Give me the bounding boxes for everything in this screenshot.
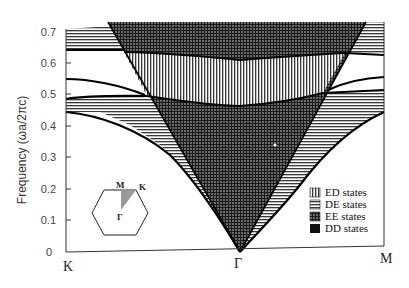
svg-text:EE states: EE states bbox=[325, 210, 366, 222]
legend: ED states DE states EE states DD states bbox=[310, 186, 368, 234]
legend-item-ed: ED states bbox=[310, 186, 367, 198]
inset-label-gamma: Γ bbox=[117, 212, 123, 222]
legend-item-dd: DD states bbox=[310, 222, 368, 234]
y-tick-0.7: 0.7 bbox=[41, 26, 56, 38]
y-tick-0.2: 0.2 bbox=[41, 183, 56, 195]
y-tick-labels: 0 0.1 0.2 0.3 0.4 0.5 0.6 0.7 bbox=[41, 26, 56, 258]
y-tick-0: 0 bbox=[46, 246, 52, 258]
curve-m-band bbox=[328, 77, 384, 90]
legend-item-ee: EE states bbox=[310, 210, 366, 222]
x-label-gamma: Γ bbox=[234, 256, 242, 271]
svg-text:ED states: ED states bbox=[325, 186, 367, 198]
y-axis-title: Frequency (ωa/2πc) bbox=[15, 96, 29, 204]
marker-dot bbox=[273, 143, 276, 146]
inset-label-k: K bbox=[139, 182, 146, 192]
y-tick-0.1: 0.1 bbox=[41, 214, 56, 226]
y-tick-0.4: 0.4 bbox=[41, 120, 56, 132]
inset-label-m: M bbox=[116, 180, 125, 190]
brillouin-zone-inset: M K Γ bbox=[92, 180, 148, 235]
svg-text:DD states: DD states bbox=[325, 222, 368, 234]
y-tick-0.5: 0.5 bbox=[41, 88, 56, 100]
x-label-k: K bbox=[63, 259, 73, 274]
y-axis bbox=[66, 63, 71, 220]
svg-text:DE states: DE states bbox=[325, 198, 367, 210]
band-structure-chart: 0 0.1 0.2 0.3 0.4 0.5 0.6 0.7 Frequency … bbox=[0, 0, 409, 288]
y-tick-0.3: 0.3 bbox=[41, 151, 56, 163]
x-label-m: M bbox=[380, 251, 393, 266]
y-tick-0.6: 0.6 bbox=[41, 57, 56, 69]
legend-item-de: DE states bbox=[310, 198, 367, 210]
curve-k-band bbox=[66, 79, 145, 95]
